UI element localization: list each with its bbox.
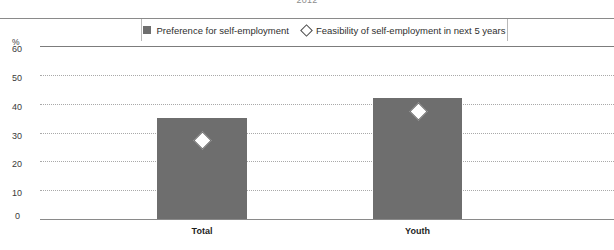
axis-baseline [40,219,614,220]
gridline-20 [40,161,614,162]
gridline-60 [40,46,614,47]
gridline-10 [40,190,614,191]
category-label-youth: Youth [373,226,462,237]
legend-item-preference: Preference for self-employment [143,25,289,36]
legend-label-preference: Preference for self-employment [156,25,289,36]
gridline-40 [40,104,614,105]
plot-area [40,46,614,219]
chart-container: 2012 Preference for self-employment Feas… [0,0,614,250]
ytick-50: 50 [12,73,44,83]
ytick-10: 10 [12,188,44,198]
ytick-20: 20 [12,159,44,169]
category-label-total: Total [157,226,247,237]
ytick-60: 60 [12,44,44,54]
year-caption: 2012 [0,0,614,4]
gridline-50 [40,75,614,76]
chart-legend: Preference for self-employment Feasibili… [141,19,508,41]
gridline-30 [40,133,614,134]
ytick-0: 0 [15,211,47,221]
legend-label-feasibility: Feasibility of self-employment in next 5… [316,25,506,36]
open-diamond-icon [300,24,313,37]
legend-item-feasibility: Feasibility of self-employment in next 5… [302,25,506,36]
filled-square-icon [143,26,151,34]
ytick-40: 40 [12,102,44,112]
ytick-30: 30 [12,131,44,141]
